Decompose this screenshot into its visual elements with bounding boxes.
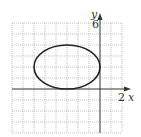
x-tick-label: 2 (118, 91, 125, 104)
axes (12, 17, 128, 133)
y-tick-label: 6 (92, 18, 99, 31)
grid (12, 23, 122, 133)
ellipse-plot: y 6 2 x (0, 0, 141, 137)
x-axis-label: x (128, 91, 135, 104)
